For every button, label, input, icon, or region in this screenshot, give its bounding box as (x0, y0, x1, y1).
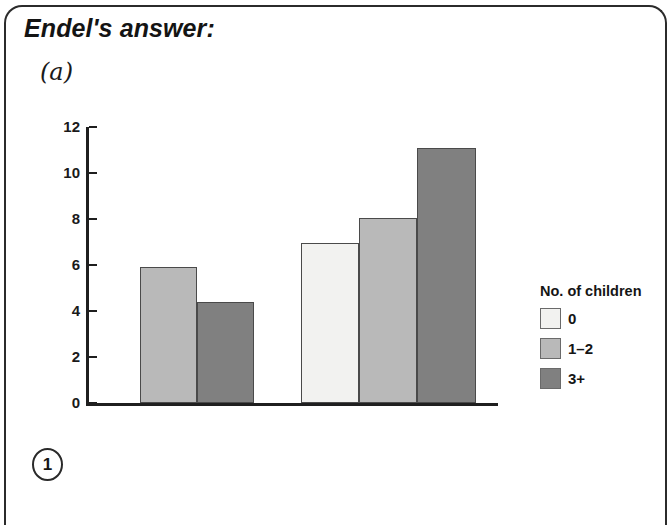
legend-swatch (540, 308, 561, 329)
legend-title: No. of children (540, 283, 660, 299)
legend-swatch (540, 338, 561, 359)
legend-label: 3+ (568, 370, 585, 387)
legend-label: 0 (568, 310, 576, 327)
y-tick-label: 0 (46, 395, 80, 410)
y-tick-label: 4 (46, 303, 80, 318)
y-tick-label: 10 (46, 165, 80, 180)
bar (301, 243, 359, 403)
bar (417, 148, 476, 403)
y-tick-label: 8 (46, 211, 80, 226)
legend-entries: 01–23+ (540, 308, 660, 389)
y-tick-label: 6 (46, 257, 80, 272)
y-tick-label: 12 (46, 119, 80, 134)
bar (197, 302, 254, 403)
legend-item: 0 (540, 308, 660, 329)
legend-item: 3+ (540, 368, 660, 389)
bar (140, 267, 197, 403)
x-axis-line (86, 403, 498, 406)
y-tick-label: 2 (46, 349, 80, 364)
plot-area (89, 127, 498, 403)
bar (359, 218, 417, 403)
legend-item: 1–2 (540, 338, 660, 359)
page-number-badge: 1 (32, 448, 63, 481)
legend-swatch (540, 368, 561, 389)
legend: No. of children 01–23+ (540, 283, 660, 398)
legend-label: 1–2 (568, 340, 593, 357)
